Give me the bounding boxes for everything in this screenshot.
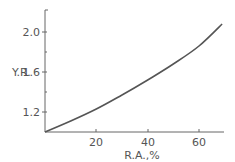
y-tick-label-2-0: 2.0 [23, 26, 41, 39]
y-tick-label-1-2: 1.2 [23, 106, 41, 119]
line-chart: 2.0 1.6 1.2 Y.R. 20 40 60 R.A.,% [0, 0, 235, 162]
x-tick-label-40: 40 [141, 136, 155, 149]
data-curve [45, 24, 222, 132]
y-axis-label: Y.R. [11, 66, 31, 79]
x-axis-label: R.A.,% [124, 149, 160, 162]
x-tick-label-60: 60 [192, 136, 206, 149]
x-tick-label-20: 20 [89, 136, 103, 149]
